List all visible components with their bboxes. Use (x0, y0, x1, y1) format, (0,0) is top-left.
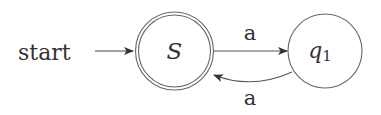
start-label: start (18, 40, 71, 65)
transition-s-to-q1-label: a (244, 21, 257, 45)
svg-text:q1: q1 (308, 38, 332, 65)
transition-q1-to-s (214, 72, 292, 82)
state-q1-label: q (308, 38, 322, 63)
state-s: S (136, 12, 214, 90)
state-s-label: S (167, 38, 183, 64)
transition-q1-to-s-label: a (244, 86, 257, 110)
state-q1-subscript: 1 (322, 47, 332, 65)
state-q1: q1 (288, 14, 362, 88)
automaton-diagram: start S q1 a a (0, 0, 381, 115)
